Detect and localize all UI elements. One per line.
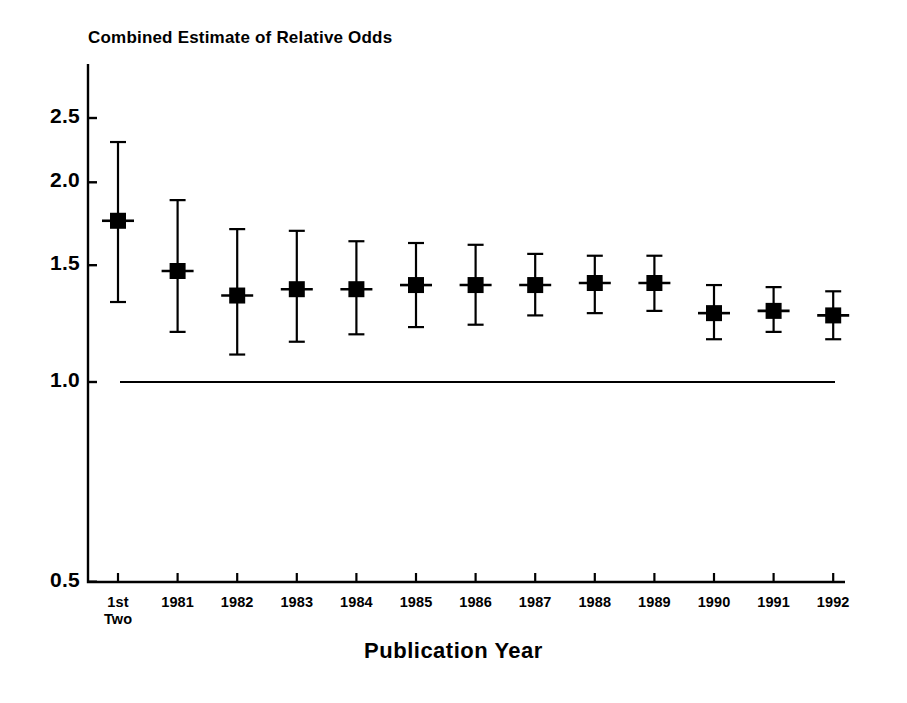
point-marker-square xyxy=(468,277,484,293)
point-marker-square xyxy=(646,275,662,291)
data-point-group[interactable] xyxy=(698,285,730,339)
y-axis-tick-label: 0.5 xyxy=(18,568,80,592)
point-marker-square xyxy=(348,281,364,297)
data-point-group[interactable] xyxy=(400,243,432,327)
point-marker-square xyxy=(825,307,841,323)
point-marker-square xyxy=(229,288,245,304)
data-point-group[interactable] xyxy=(102,142,134,302)
data-point-group[interactable] xyxy=(758,287,790,332)
point-marker-square xyxy=(706,305,722,321)
point-marker-square xyxy=(110,213,126,229)
x-axis-title: Publication Year xyxy=(0,638,907,664)
point-marker-square xyxy=(289,281,305,297)
data-point-group[interactable] xyxy=(817,291,849,339)
y-axis-tick-label: 1.5 xyxy=(18,251,80,275)
data-point-group[interactable] xyxy=(340,241,372,334)
y-axis-tick-label: 1.0 xyxy=(18,368,80,392)
point-marker-square xyxy=(408,277,424,293)
point-marker-square xyxy=(170,263,186,279)
point-marker-square xyxy=(527,277,543,293)
x-axis-tick-label-line1: 1992 xyxy=(798,594,868,611)
x-axis-tick-label: 1992 xyxy=(798,594,868,611)
chart-figure: Combined Estimate of Relative Odds 2.52.… xyxy=(0,0,907,703)
data-point-group[interactable] xyxy=(162,200,194,332)
point-marker-square xyxy=(766,303,782,319)
data-point-group[interactable] xyxy=(221,229,253,354)
axis-spine xyxy=(88,64,845,582)
data-point-group[interactable] xyxy=(460,245,492,325)
data-point-group[interactable] xyxy=(281,231,313,342)
data-point-group[interactable] xyxy=(579,256,611,313)
y-axis-tick-label: 2.0 xyxy=(18,168,80,192)
y-axis-tick-label: 2.5 xyxy=(18,104,80,128)
x-axis-tick-label-line2: Two xyxy=(83,611,153,628)
data-point-group[interactable] xyxy=(519,254,551,316)
data-point-group[interactable] xyxy=(638,256,670,311)
point-marker-square xyxy=(587,275,603,291)
